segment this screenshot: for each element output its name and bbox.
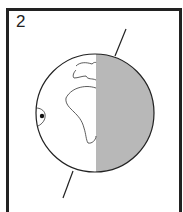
globe-diagram xyxy=(0,0,183,212)
night-side xyxy=(96,50,166,180)
axis-top xyxy=(115,29,126,56)
location-dot-icon xyxy=(40,114,44,118)
axis-bottom xyxy=(63,171,73,198)
